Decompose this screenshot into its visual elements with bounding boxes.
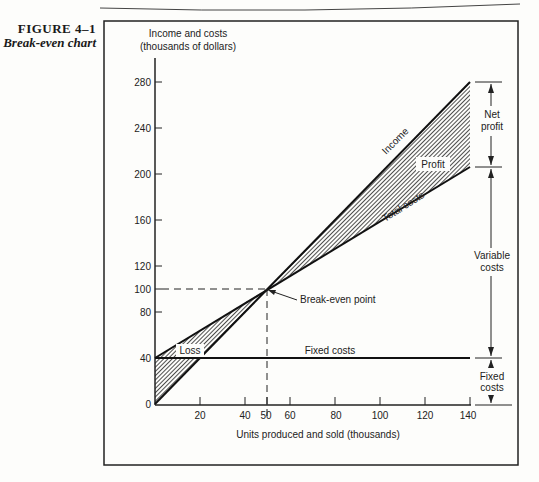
net-profit-label: profit xyxy=(481,121,503,132)
y-tick-label: 200 xyxy=(134,169,151,180)
break-even-arrowhead-icon xyxy=(268,290,276,295)
variable-costs-label: Variable xyxy=(474,250,510,261)
x-tick-label: 40 xyxy=(239,410,251,421)
y-tick-label: 80 xyxy=(140,307,152,318)
x-tick-label: 120 xyxy=(417,410,434,421)
x-tick-label: 60 xyxy=(284,410,296,421)
fixed-costs-label: Fixed costs xyxy=(305,345,356,356)
arrow-down-icon xyxy=(488,347,494,356)
loss-label: Loss xyxy=(179,345,200,356)
y-axis-label-line2: (thousands of dollars) xyxy=(140,41,236,52)
x-tick-label: 100 xyxy=(372,410,389,421)
profit-label: Profit xyxy=(421,159,445,170)
y-axis-label-line1: Income and costs xyxy=(149,28,227,39)
y-axis-ticks xyxy=(155,82,162,358)
chart-frame xyxy=(104,21,518,465)
x-axis-label: Units produced and sold (thousands) xyxy=(236,429,399,440)
x-tick-label: 20 xyxy=(194,410,206,421)
y-tick-label: 240 xyxy=(134,123,151,134)
y-tick-label: 100 xyxy=(134,284,151,295)
arrow-down-icon xyxy=(488,395,494,403)
y-tick-label: 0 xyxy=(145,399,151,410)
break-even-label: Break-even point xyxy=(300,294,376,305)
arrow-down-icon xyxy=(488,156,494,165)
x-tick-label: 50 xyxy=(260,410,272,421)
x-axis-tick-labels: 20 40 50 60 80 100 120 140 xyxy=(194,410,476,421)
fixed-costs-dimension-label: Fixed xyxy=(480,371,504,382)
arrow-up-icon xyxy=(488,360,494,368)
y-axis-tick-labels: 280 240 200 160 120 100 80 40 0 xyxy=(134,77,151,410)
y-tick-label: 120 xyxy=(134,261,151,272)
page-edge-line xyxy=(100,4,520,10)
x-tick-label: 140 xyxy=(460,410,477,421)
variable-costs-label: costs xyxy=(480,262,503,273)
fixed-costs-dimension-label: costs xyxy=(480,382,503,393)
x-axis-ticks xyxy=(200,397,470,405)
y-tick-label: 40 xyxy=(140,353,152,364)
y-tick-label: 280 xyxy=(134,77,151,88)
x-tick-label: 80 xyxy=(330,410,342,421)
y-tick-label: 160 xyxy=(134,215,151,226)
arrow-up-icon xyxy=(488,84,494,93)
arrow-up-icon xyxy=(488,169,494,178)
break-even-chart: Income and costs (thousands of dollars) … xyxy=(0,0,539,482)
net-profit-label: Net xyxy=(484,109,500,120)
